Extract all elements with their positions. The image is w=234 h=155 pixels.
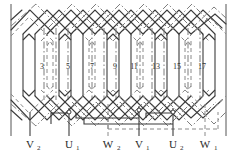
terminal-sub-U2: 2 bbox=[180, 144, 184, 152]
terminal-sub-W2: 2 bbox=[117, 144, 121, 152]
slot-number-15: 15 bbox=[173, 62, 181, 71]
terminal-labels: V 2 U 1 W 2 V 1 U 2 W 1 bbox=[26, 138, 218, 152]
slot-number-5: 5 bbox=[66, 62, 70, 71]
slot-number-17: 17 bbox=[198, 62, 206, 71]
terminal-label-U2: U 2 bbox=[169, 138, 184, 152]
terminal-sub-V1: 1 bbox=[146, 144, 150, 152]
slot-number-13: 13 bbox=[152, 62, 160, 71]
terminal-sub-V2: 2 bbox=[37, 144, 41, 152]
terminal-label-V1: V 1 bbox=[135, 138, 150, 152]
terminal-base-W2: W bbox=[103, 138, 114, 150]
terminal-base-W1: W bbox=[200, 138, 211, 150]
terminal-label-V2: V 2 bbox=[26, 138, 41, 152]
slot-number-labels: 3 5 7 9 11 13 15 17 bbox=[40, 62, 206, 71]
terminal-label-W2: W 2 bbox=[103, 138, 121, 152]
winding-diagram-root: 3 5 7 9 11 13 15 17 V 2 U 1 W 2 V bbox=[0, 0, 234, 155]
terminal-base-V2: V bbox=[26, 138, 34, 150]
slot-number-7: 7 bbox=[90, 62, 94, 71]
terminal-base-U1: U bbox=[65, 138, 73, 150]
terminal-sub-U1: 1 bbox=[76, 144, 80, 152]
terminal-base-U2: U bbox=[169, 138, 177, 150]
terminal-sub-W1: 1 bbox=[214, 144, 218, 152]
slot-number-11: 11 bbox=[130, 62, 138, 71]
slot-number-3: 3 bbox=[40, 62, 44, 71]
terminal-label-U1: U 1 bbox=[65, 138, 80, 152]
winding-diagram-svg: 3 5 7 9 11 13 15 17 V 2 U 1 W 2 V bbox=[0, 0, 234, 155]
terminal-base-V1: V bbox=[135, 138, 143, 150]
slot-number-9: 9 bbox=[113, 62, 117, 71]
terminal-label-W1: W 1 bbox=[200, 138, 218, 152]
